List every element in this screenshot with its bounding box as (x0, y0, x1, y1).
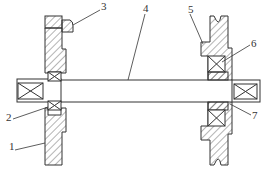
assembly-diagram: 1 2 3 4 5 6 7 (0, 0, 265, 175)
label-7: 7 (252, 110, 258, 121)
label-6: 6 (251, 38, 257, 49)
pulley (201, 16, 232, 165)
label-4: 4 (143, 3, 149, 14)
assembly-drawing (0, 0, 265, 175)
label-3: 3 (101, 1, 107, 12)
right-bearing-upper (208, 56, 228, 80)
right-bearing-lower (208, 102, 228, 126)
left-shaft-end (17, 79, 61, 102)
right-shaft-end (232, 80, 260, 102)
label-1: 1 (9, 141, 15, 152)
label-2: 2 (6, 112, 12, 123)
shaft (61, 80, 208, 102)
label-5: 5 (188, 4, 194, 15)
